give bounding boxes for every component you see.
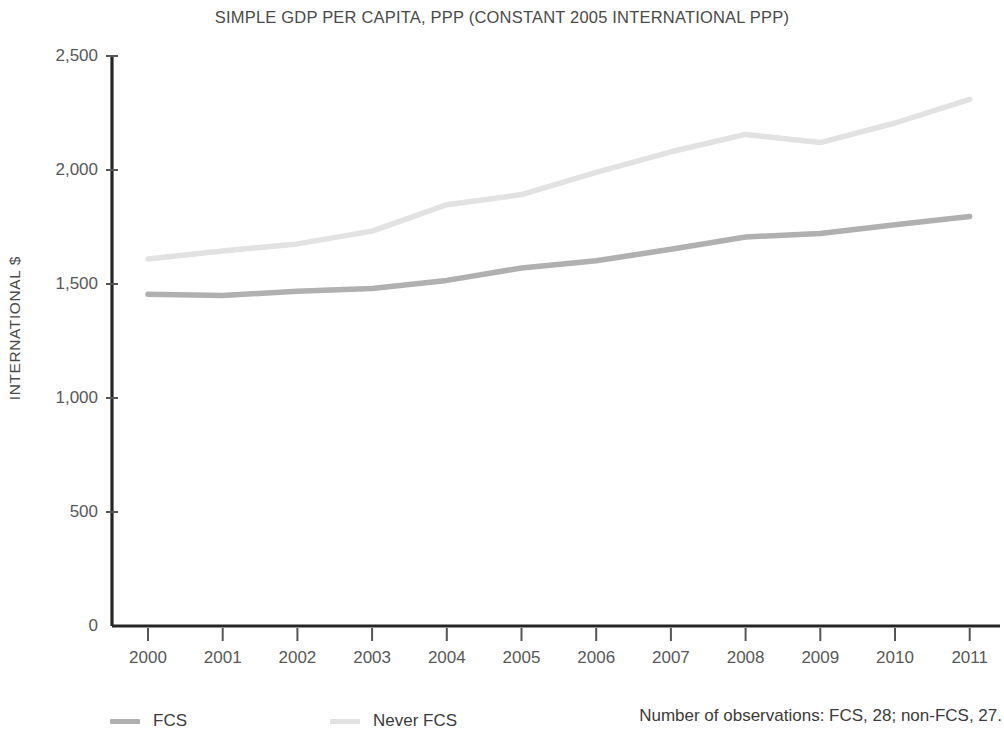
legend-swatch-never-fcs <box>330 719 360 724</box>
x-tickmarks <box>148 628 970 641</box>
legend-item-never-fcs[interactable]: Never FCS <box>330 711 457 731</box>
legend-swatch-fcs <box>110 719 140 724</box>
series-lines <box>148 99 970 295</box>
legend-item-fcs[interactable]: FCS <box>110 711 187 731</box>
chart-container: SIMPLE GDP PER CAPITA, PPP (CONSTANT 200… <box>0 0 1004 736</box>
series-line-never-fcs <box>148 99 970 259</box>
legend-label-fcs: FCS <box>153 711 187 731</box>
series-line-fcs <box>148 217 970 296</box>
legend-label-never-fcs: Never FCS <box>373 711 457 731</box>
observations-note: Number of observations: FCS, 28; non-FCS… <box>639 706 1002 726</box>
chart-legend: FCS Never FCS Number of observations: FC… <box>0 706 1004 736</box>
plot-area <box>0 0 1004 736</box>
axis-lines <box>112 56 1000 626</box>
